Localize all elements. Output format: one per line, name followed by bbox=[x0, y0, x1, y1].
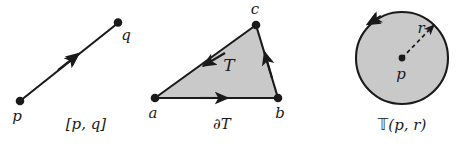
caption-disk-blackboard-t: 𝕋 bbox=[377, 116, 389, 134]
caption-disk-args: (p, r) bbox=[388, 116, 426, 134]
point-marker-b bbox=[274, 94, 283, 103]
panel-triangle: a b c T ∂T bbox=[149, 0, 285, 133]
figure-container: p q [p, q] a b c T ∂T bbox=[0, 0, 468, 144]
label-vertex-a: a bbox=[149, 104, 158, 122]
caption-triangle: ∂T bbox=[213, 115, 232, 133]
label-triangle-interior: T bbox=[223, 55, 236, 75]
label-point-q: q bbox=[121, 26, 131, 44]
label-point-p: p bbox=[12, 107, 22, 125]
panel-disk: p r 𝕋(p, r) bbox=[356, 12, 448, 134]
label-vertex-b: b bbox=[275, 104, 285, 122]
panel-segment: p q [p, q] bbox=[12, 18, 131, 133]
figure-canvas: p q [p, q] a b c T ∂T bbox=[0, 0, 468, 144]
label-radius-r: r bbox=[417, 19, 425, 37]
segment-midpoint-arrowhead bbox=[58, 54, 79, 71]
label-center-p: p bbox=[396, 65, 406, 83]
point-marker-p bbox=[16, 97, 25, 106]
point-marker-c bbox=[252, 21, 261, 30]
caption-segment: [p, q] bbox=[66, 115, 107, 133]
caption-disk: 𝕋(p, r) bbox=[377, 116, 427, 134]
point-marker-a bbox=[151, 94, 160, 103]
label-vertex-c: c bbox=[251, 0, 260, 18]
point-marker-center-p bbox=[399, 55, 406, 62]
